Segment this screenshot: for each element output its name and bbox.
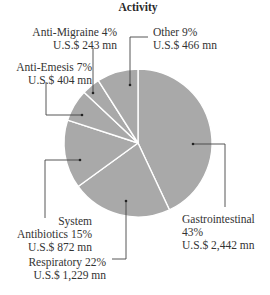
label-system-antibiotics-line2: Antibiotics 15% bbox=[17, 228, 92, 241]
label-system-antibiotics: System Antibiotics 15% U.S.$ 872 mn bbox=[17, 215, 92, 254]
label-gastrointestinal-percent: 43% bbox=[182, 226, 255, 239]
label-respiratory-name: Respiratory 22% bbox=[28, 256, 106, 269]
dot-system-antibiotics bbox=[79, 159, 82, 162]
label-respiratory: Respiratory 22% U.S.$ 1,229 mn bbox=[28, 256, 106, 282]
dot-other bbox=[129, 84, 132, 87]
label-anti-migraine-name: Anti-Migraine 4% bbox=[32, 26, 117, 39]
dot-anti-migraine bbox=[92, 92, 95, 95]
label-anti-migraine: Anti-Migraine 4% U.S.$ 243 mn bbox=[32, 26, 117, 52]
label-anti-emesis: Anti-Emesis 7% U.S.$ 404 mn bbox=[16, 61, 92, 87]
dot-respiratory bbox=[125, 200, 128, 203]
dot-anti-emesis bbox=[81, 114, 84, 117]
label-respiratory-value: U.S.$ 1,229 mn bbox=[28, 269, 106, 282]
label-anti-migraine-value: U.S.$ 243 mn bbox=[32, 39, 117, 52]
label-anti-emesis-name: Anti-Emesis 7% bbox=[16, 61, 92, 74]
chart-title: Activity bbox=[0, 0, 270, 14]
label-gastrointestinal-value: U.S.$ 2,442 mn bbox=[182, 239, 255, 252]
label-other-value: U.S.$ 466 mn bbox=[153, 39, 217, 52]
pie-slices bbox=[64, 69, 212, 217]
label-anti-emesis-value: U.S.$ 404 mn bbox=[16, 74, 92, 87]
label-other-name: Other 9% bbox=[153, 26, 217, 39]
label-gastrointestinal-name: Gastrointestinal bbox=[182, 213, 255, 226]
label-system-antibiotics-line1: System bbox=[17, 215, 92, 228]
label-other: Other 9% U.S.$ 466 mn bbox=[153, 26, 217, 52]
dot-gastrointestinal bbox=[192, 143, 195, 146]
label-gastrointestinal: Gastrointestinal 43% U.S.$ 2,442 mn bbox=[182, 213, 255, 252]
label-system-antibiotics-value: U.S.$ 872 mn bbox=[17, 241, 92, 254]
